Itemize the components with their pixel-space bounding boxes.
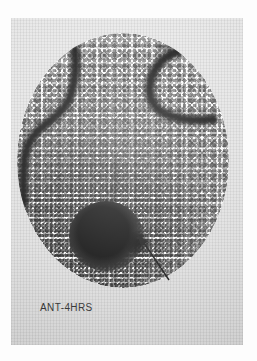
study-label: ANT-4HRS (40, 302, 93, 313)
scintigram-print: ANT-4HRS (11, 18, 243, 345)
gamma-camera-field-of-view (17, 33, 229, 288)
dominant-activity-focus-core (79, 209, 129, 255)
adjacent-activity-focus (125, 231, 151, 255)
screenshot-root: ANT-4HRS (0, 0, 257, 361)
left-curvilinear-activity (23, 49, 76, 203)
right-curvilinear-activity (150, 47, 213, 120)
midline-faint-activity (110, 163, 117, 201)
